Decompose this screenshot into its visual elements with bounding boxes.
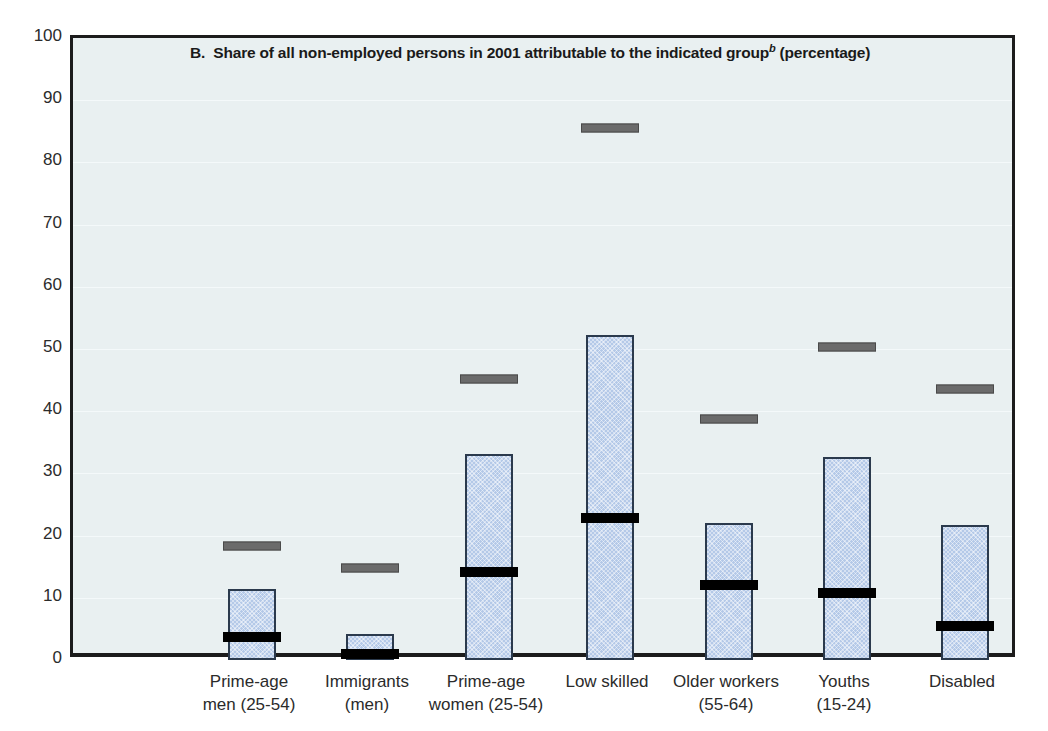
grey-marker: [700, 415, 758, 424]
gridline: [73, 100, 1012, 101]
x-axis-category-label: Disabled: [929, 671, 995, 694]
y-axis-tick-label: 40: [6, 400, 62, 417]
y-axis-tick-label: 70: [6, 213, 62, 230]
x-axis-category-label-line1: Low skilled: [565, 672, 648, 691]
grey-marker: [223, 542, 281, 551]
y-axis-tick-label: 20: [6, 524, 62, 541]
x-axis-category-label: Older workers(55-64): [673, 671, 779, 717]
chart-figure: 1009080706050403020100 B. Share of all n…: [0, 0, 1048, 731]
x-axis-category-label-line2: men (25-54): [203, 694, 296, 717]
bar: [823, 457, 871, 660]
chart-title-prefix: B.: [190, 44, 205, 61]
black-marker: [341, 649, 399, 659]
x-axis-category-label: Immigrants(men): [325, 671, 409, 717]
black-marker: [460, 567, 518, 577]
x-axis-category-label-line1: Prime-age: [210, 672, 288, 691]
x-axis-category-label-line2: (15-24): [817, 694, 872, 717]
black-marker: [936, 621, 994, 631]
y-axis-tick-label: 10: [6, 586, 62, 603]
black-marker: [818, 588, 876, 598]
y-axis-tick-label: 80: [6, 151, 62, 168]
y-axis-tick-label: 100: [6, 27, 62, 44]
grey-marker: [936, 384, 994, 393]
x-axis-category-label-line2: (men): [325, 694, 409, 717]
grey-marker: [818, 343, 876, 352]
y-axis-tick-label: 50: [6, 338, 62, 355]
black-marker: [223, 632, 281, 642]
gridline: [73, 287, 1012, 288]
x-axis-category-label-line2: (55-64): [673, 694, 779, 717]
x-axis-category-label-line1: Disabled: [929, 672, 995, 691]
chart-title-superscript: b: [769, 42, 776, 54]
gridline: [73, 411, 1012, 412]
y-axis-tick-label: 30: [6, 462, 62, 479]
gridline: [73, 162, 1012, 163]
gridline: [73, 536, 1012, 537]
x-axis-category-label-line1: Youths: [818, 672, 869, 691]
black-marker: [700, 580, 758, 590]
y-axis: 1009080706050403020100: [0, 0, 62, 731]
plot-inner: [73, 38, 1012, 653]
chart-title-suffix: (percentage): [780, 44, 871, 61]
x-axis-category-label: Prime-agemen (25-54): [203, 671, 296, 717]
y-axis-tick-label: 90: [6, 89, 62, 106]
bar: [705, 523, 753, 660]
bar: [941, 525, 989, 660]
plot-area: [70, 35, 1015, 657]
grey-marker: [581, 124, 639, 133]
x-axis-category-label-line1: Older workers: [673, 672, 779, 691]
chart-title: B. Share of all non-employed persons in …: [190, 42, 870, 62]
gridline: [73, 225, 1012, 226]
bar: [228, 589, 276, 660]
grey-marker: [341, 563, 399, 572]
y-axis-tick-label: 60: [6, 275, 62, 292]
gridline: [73, 473, 1012, 474]
x-axis-category-label-line2: women (25-54): [429, 694, 543, 717]
x-axis-category-label: Youths(15-24): [817, 671, 872, 717]
grey-marker: [460, 374, 518, 383]
y-axis-tick-label: 0: [6, 649, 62, 666]
bar: [586, 335, 634, 660]
x-axis-category-label: Prime-agewomen (25-54): [429, 671, 543, 717]
bar: [465, 454, 513, 660]
x-axis-category-label-line1: Immigrants: [325, 672, 409, 691]
x-axis-category-label-line1: Prime-age: [447, 672, 525, 691]
black-marker: [581, 513, 639, 523]
x-axis-category-label: Low skilled: [565, 671, 648, 694]
chart-title-main: Share of all non-employed persons in 200…: [213, 44, 769, 61]
